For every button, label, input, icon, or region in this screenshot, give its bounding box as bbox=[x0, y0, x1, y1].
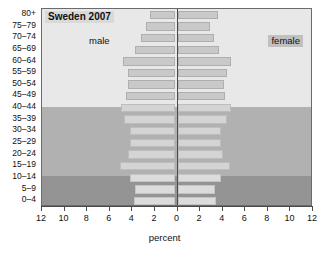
female-bar bbox=[178, 80, 224, 88]
age-group-label: 45–49 bbox=[0, 89, 38, 101]
age-group-label: 55–59 bbox=[0, 66, 38, 78]
female-bar bbox=[178, 57, 231, 65]
x-axis-tick-label: 12 bbox=[301, 213, 323, 223]
x-axis-tick-label: 12 bbox=[30, 213, 52, 223]
age-group-axis-labels: 80+75–7970–7465–6960–6455–5950–5445–4940… bbox=[0, 8, 38, 206]
female-bar bbox=[178, 185, 215, 193]
female-bar bbox=[178, 162, 230, 170]
male-legend-label: male bbox=[89, 35, 110, 46]
plot-area: Sweden 2007 male female bbox=[41, 8, 312, 206]
female-bar bbox=[178, 115, 227, 123]
male-bar bbox=[128, 80, 175, 88]
male-bar bbox=[135, 46, 175, 54]
male-bar bbox=[121, 104, 175, 112]
x-axis-tick-label: 0 bbox=[166, 213, 188, 223]
age-group-label: 75–79 bbox=[0, 20, 38, 32]
x-axis-tick-labels: 12108642024681012 bbox=[20, 213, 329, 225]
male-bar bbox=[150, 11, 175, 19]
age-group-label: 10–14 bbox=[0, 171, 38, 183]
population-pyramid-chart: Sweden 2007 male female 80+75–7970–7465–… bbox=[0, 0, 329, 259]
x-axis-tick-label: 2 bbox=[143, 213, 165, 223]
age-group-label: 20–24 bbox=[0, 148, 38, 160]
female-legend-label: female bbox=[268, 35, 303, 47]
male-bar bbox=[128, 150, 175, 158]
x-axis-tick-label: 4 bbox=[211, 213, 233, 223]
age-group-label: 25–29 bbox=[0, 136, 38, 148]
age-group-label: 70–74 bbox=[0, 31, 38, 43]
x-axis-tick-label: 2 bbox=[188, 213, 210, 223]
age-group-label: 80+ bbox=[0, 8, 38, 20]
age-group-label: 30–34 bbox=[0, 124, 38, 136]
male-bar bbox=[123, 57, 175, 65]
male-bar bbox=[128, 69, 175, 77]
female-bar bbox=[178, 92, 225, 100]
x-axis-title: percent bbox=[0, 232, 329, 243]
female-bar bbox=[178, 11, 218, 19]
male-bar bbox=[120, 162, 175, 170]
female-bar bbox=[178, 139, 221, 147]
male-bar bbox=[135, 185, 175, 193]
x-axis-tick bbox=[312, 206, 313, 211]
female-bar bbox=[178, 174, 221, 182]
x-axis-tick-label: 6 bbox=[233, 213, 255, 223]
male-bar bbox=[134, 197, 175, 205]
x-axis-tick-label: 6 bbox=[98, 213, 120, 223]
female-bar bbox=[178, 127, 221, 135]
age-group-label: 15–19 bbox=[0, 159, 38, 171]
female-bar bbox=[178, 46, 219, 54]
male-bar bbox=[124, 115, 175, 123]
female-bar bbox=[178, 197, 216, 205]
age-group-label: 5–9 bbox=[0, 183, 38, 195]
x-axis-tick-label: 10 bbox=[278, 213, 300, 223]
male-bar bbox=[130, 139, 175, 147]
female-bar bbox=[178, 104, 231, 112]
age-group-label: 60–64 bbox=[0, 55, 38, 67]
male-bar bbox=[130, 127, 175, 135]
male-bar bbox=[130, 174, 175, 182]
chart-title: Sweden 2007 bbox=[45, 11, 114, 23]
x-axis-tick-label: 4 bbox=[120, 213, 142, 223]
male-bar bbox=[141, 34, 175, 42]
x-axis-line bbox=[41, 206, 312, 207]
x-axis-tick-label: 10 bbox=[53, 213, 75, 223]
female-bar bbox=[178, 22, 210, 30]
age-group-label: 50–54 bbox=[0, 78, 38, 90]
age-group-label: 0–4 bbox=[0, 194, 38, 206]
female-bar bbox=[178, 150, 223, 158]
zero-axis-line bbox=[177, 9, 178, 205]
female-bar bbox=[178, 34, 214, 42]
age-group-label: 40–44 bbox=[0, 101, 38, 113]
age-group-label: 35–39 bbox=[0, 113, 38, 125]
age-group-label: 65–69 bbox=[0, 43, 38, 55]
male-bar bbox=[146, 22, 175, 30]
x-axis-tick-label: 8 bbox=[256, 213, 278, 223]
x-axis-tick-label: 8 bbox=[75, 213, 97, 223]
male-bar bbox=[126, 92, 175, 100]
female-bar bbox=[178, 69, 227, 77]
